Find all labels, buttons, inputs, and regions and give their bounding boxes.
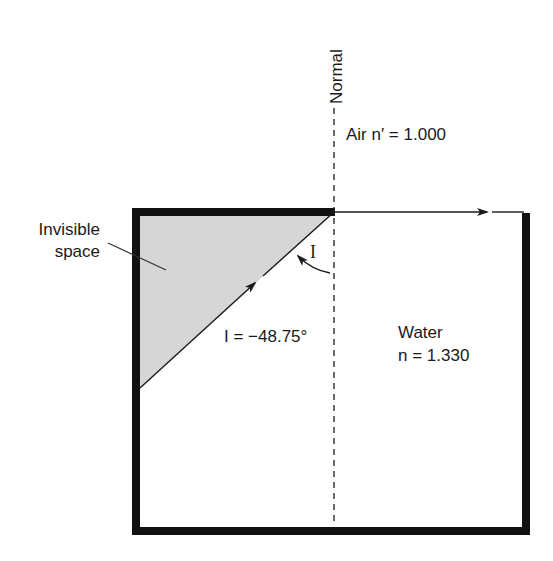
water-label-line1: Water <box>398 323 443 342</box>
air-label: Air n′ = 1.000 <box>346 125 446 144</box>
invisible-label-line1: Invisible <box>39 220 100 239</box>
tank-right-wall <box>522 213 530 535</box>
water-label-line2: n = 1.330 <box>398 346 469 365</box>
normal-label: Normal <box>327 49 346 104</box>
diagram-svg: Normal Air n′ = 1.000 Invisible space I … <box>0 0 553 561</box>
angle-symbol-label: I <box>310 242 316 262</box>
angle-value-label: I = −48.75° <box>224 327 307 346</box>
tank-bottom-wall <box>132 527 530 535</box>
tank-top-wall <box>132 208 335 216</box>
refraction-diagram: Normal Air n′ = 1.000 Invisible space I … <box>0 0 553 561</box>
invisible-label-line2: space <box>55 242 100 261</box>
